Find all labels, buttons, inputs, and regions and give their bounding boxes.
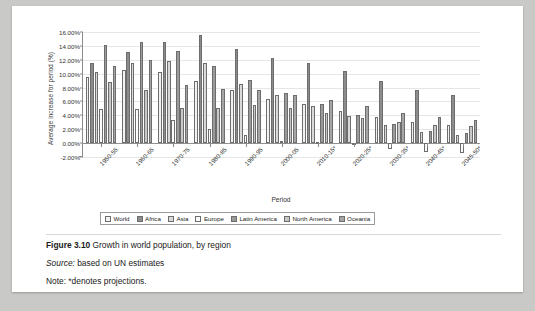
- y-tick-label: -2.00%: [60, 154, 80, 161]
- legend-item[interactable]: Africa: [137, 215, 161, 222]
- legend-swatch: [339, 216, 345, 222]
- x-tickmarks: [83, 32, 480, 157]
- chart-legend: WorldAfricaAsiaEuropeLatin AmericaNorth …: [100, 212, 375, 225]
- y-tick-label: 2.00%: [62, 126, 80, 133]
- x-tick-mark: [173, 143, 174, 147]
- legend-label: Oceania: [347, 215, 370, 222]
- y-tick-label: 6.00%: [62, 98, 80, 105]
- legend-label: North America: [292, 215, 331, 222]
- x-tick-mark: [246, 143, 247, 147]
- y-tick-label: 10.00%: [59, 70, 80, 77]
- legend-item[interactable]: Latin America: [231, 215, 277, 222]
- x-tick-mark: [137, 143, 138, 147]
- legend-item[interactable]: Asia: [168, 215, 189, 222]
- divider: [46, 234, 501, 235]
- screenshot-page: Average increase for period (%) 16.00%14…: [0, 0, 535, 311]
- note-label: Note:: [46, 276, 66, 286]
- x-axis-title: Period: [82, 196, 480, 203]
- figure-source: Source: based on UN estimates: [46, 258, 164, 268]
- legend-swatch: [105, 216, 111, 222]
- plot-area: 16.00%14.00%12.00%10.00%8.00%6.00%4.00%2…: [82, 32, 480, 157]
- x-tick-mark: [210, 143, 211, 147]
- legend-label: Europe: [204, 215, 224, 222]
- y-axis-title: Average increase for period (%): [44, 34, 58, 162]
- legend-item[interactable]: North America: [284, 215, 332, 222]
- legend-label: Africa: [145, 215, 161, 222]
- x-tick-mark: [463, 143, 464, 147]
- legend-item[interactable]: Europe: [195, 215, 223, 222]
- legend-swatch: [137, 216, 143, 222]
- y-tick-label: 4.00%: [62, 112, 80, 119]
- figure-number: Figure 3.10: [46, 240, 90, 250]
- x-tick-mark: [391, 143, 392, 147]
- figure-note: Note: *denotes projections.: [46, 276, 147, 286]
- y-tick-label: 12.00%: [59, 56, 80, 63]
- source-text: based on UN estimates: [77, 258, 164, 268]
- figure-caption: Figure 3.10 Growth in world population, …: [46, 240, 231, 250]
- legend-swatch: [231, 216, 237, 222]
- source-label: Source:: [46, 258, 75, 268]
- x-tick-mark: [101, 143, 102, 147]
- legend-item[interactable]: World: [105, 215, 130, 222]
- legend-swatch: [284, 216, 290, 222]
- x-tick-mark: [318, 143, 319, 147]
- x-tick-mark: [282, 143, 283, 147]
- legend-swatch: [168, 216, 174, 222]
- figure-card: Average increase for period (%) 16.00%14…: [12, 6, 523, 292]
- figure-title: Growth in world population, by region: [93, 240, 231, 250]
- x-tick-mark: [354, 143, 355, 147]
- y-tick-label: 14.00%: [59, 42, 80, 49]
- chart-container: Average increase for period (%) 16.00%14…: [46, 24, 496, 214]
- legend-swatch: [195, 216, 201, 222]
- x-tick-mark: [427, 143, 428, 147]
- y-tick-label: 0.00%: [62, 140, 80, 147]
- legend-label: Asia: [176, 215, 188, 222]
- legend-label: Latin America: [239, 215, 277, 222]
- legend-label: World: [114, 215, 130, 222]
- y-tick-label: 8.00%: [62, 84, 80, 91]
- y-tick-label: 16.00%: [59, 29, 80, 36]
- x-axis-labels: 1950-551960-651970-751980-851990-952000-…: [82, 160, 480, 200]
- legend-item[interactable]: Oceania: [339, 215, 371, 222]
- note-text: *denotes projections.: [68, 276, 146, 286]
